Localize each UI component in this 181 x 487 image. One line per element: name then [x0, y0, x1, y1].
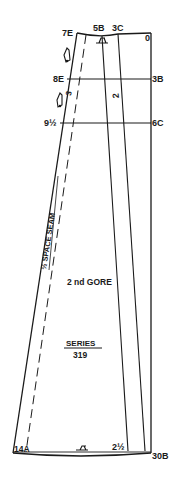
label-6C: 6C: [152, 118, 164, 128]
seam-allowance-label: ½ SPACE SEAM: [39, 212, 57, 270]
label-7E: 7E: [62, 28, 73, 38]
label-5B: 5B: [93, 23, 105, 33]
pattern-diagram: 7E 5B 3C 0 8E 3B 9½ 6C 14A 2½ 30B 2 3 ½ …: [0, 0, 181, 487]
label-2-half: 2½: [112, 442, 125, 452]
pin-marker-icon: [57, 93, 62, 107]
seam-allowance-dashed: [26, 35, 86, 452]
series-label: SERIES: [66, 339, 96, 348]
waist-line: [77, 33, 151, 36]
label-30B: 30B: [152, 451, 169, 461]
pin-marker-icon: [64, 48, 70, 62]
piece-name: 2 nd GORE: [67, 277, 112, 287]
label-14A: 14A: [14, 444, 30, 454]
panel-line-2: [118, 34, 145, 451]
panel-number: 2: [111, 93, 121, 99]
label-3B: 3B: [152, 74, 164, 84]
hem-line: [13, 453, 151, 456]
label-0: 0: [145, 33, 150, 43]
marker-number: 3: [64, 90, 74, 96]
series-number: 319: [73, 350, 87, 360]
label-8E: 8E: [53, 74, 64, 84]
label-3C: 3C: [112, 23, 124, 33]
hem-notch-icon: [76, 446, 88, 450]
label-9-half: 9½: [44, 118, 57, 128]
